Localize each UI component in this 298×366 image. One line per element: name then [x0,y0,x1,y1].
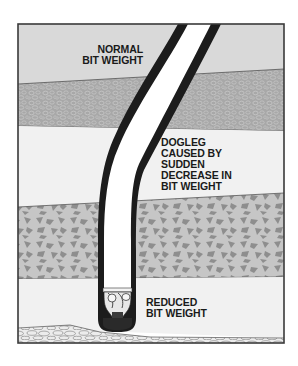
label-normal-line2: BIT WEIGHT [82,55,143,66]
label-normal-bit-weight: NORMAL BIT WEIGHT [82,44,143,66]
label-reduced-line2: BIT WEIGHT [146,308,207,319]
layer-hard-rock-formation [18,193,284,279]
label-dogleg-caused-by-sudden-decrease: DOGLEG CAUSED BY SUDDEN DECREASE IN BIT … [161,137,232,192]
label-dogleg-line5: BIT WEIGHT [161,181,232,192]
label-reduced-bit-weight: REDUCED BIT WEIGHT [146,297,207,319]
drill-bit-icon [103,288,132,330]
